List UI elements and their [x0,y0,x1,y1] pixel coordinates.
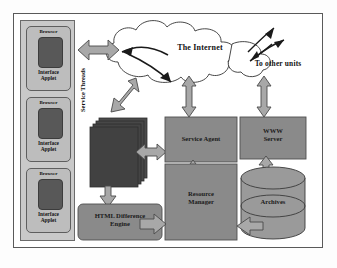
service-threads-label: Service Threads [79,68,86,112]
interface-applet-label: InterfaceApplet [27,140,70,152]
browser-stack: Browser InterfaceApplet Browser Interfac… [20,20,75,241]
browser-screen [38,179,63,210]
resource-manager-label: ResourceManager [165,190,237,205]
archives-label: Archives [241,198,305,206]
arrow-internet-www-server [257,76,271,117]
browser-client-3[interactable]: Browser InterfaceApplet [26,168,71,233]
html-diff-engine-label: HTML DifferenceEngine [76,212,164,227]
browser-client-1[interactable]: Browser InterfaceApplet [26,26,71,91]
interface-applet-label: InterfaceApplet [27,69,70,81]
arrow-internet-threads [111,78,139,112]
browser-screen [38,108,63,139]
interface-applet-label: InterfaceApplet [27,211,70,223]
browser-title: Browser [27,171,70,176]
external-cloud-lobe [228,42,270,77]
browser-screen [38,37,63,68]
browser-title: Browser [27,100,70,105]
diagram-canvas: Browser InterfaceApplet Browser Interfac… [0,0,337,268]
www-server-label: WWWServer [240,127,306,142]
browser-client-2[interactable]: Browser InterfaceApplet [26,97,71,162]
service-agent-label: Service Agent [165,135,237,143]
browser-title: Browser [27,29,70,34]
